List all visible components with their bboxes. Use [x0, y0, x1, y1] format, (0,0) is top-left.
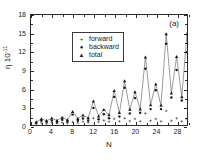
- dot-marker-icon: ●: [76, 43, 87, 51]
- legend-item-backward: ● backward: [76, 43, 119, 51]
- legend: + forward ● backward ▲ total: [72, 32, 124, 62]
- axis-tick: [73, 122, 74, 125]
- dot-marker: [170, 96, 172, 98]
- axis-tick: [157, 122, 158, 125]
- axis-tick: [31, 43, 33, 44]
- axis-tick: [31, 24, 33, 25]
- triangle-marker: [40, 117, 43, 120]
- legend-label-forward: forward: [89, 35, 112, 43]
- axis-tick: [185, 80, 187, 81]
- triangle-marker: [118, 111, 121, 114]
- axis-tick: [42, 15, 43, 17]
- axis-tick: [94, 122, 95, 125]
- plus-marker: [134, 118, 137, 121]
- axis-tick: [178, 15, 179, 18]
- plus-marker: [118, 120, 121, 123]
- y-axis-title: η 10-11: [2, 29, 13, 85]
- plus-marker: [170, 119, 173, 122]
- axis-tick: [31, 62, 33, 63]
- plus-marker: [155, 118, 158, 121]
- y-tick-label: 9: [0, 67, 26, 74]
- plus-marker: [108, 120, 111, 123]
- plus-marker: [165, 110, 168, 113]
- dot-marker: [103, 113, 105, 115]
- axis-tick: [42, 123, 43, 125]
- axis-tick: [63, 123, 64, 125]
- panel-label: (a): [169, 19, 179, 28]
- y-tick-label: 6: [0, 85, 26, 92]
- dot-marker: [118, 115, 120, 117]
- dot-marker: [160, 108, 162, 110]
- axis-tick: [185, 118, 187, 119]
- triangle-marker: [113, 89, 116, 92]
- axis-tick: [126, 123, 127, 125]
- triangle-marker: [81, 114, 84, 117]
- axis-tick: [185, 43, 187, 44]
- dot-marker: [82, 117, 84, 119]
- x-tick-label: 28: [174, 128, 182, 135]
- axis-tick: [189, 123, 190, 125]
- plus-marker: [181, 120, 184, 123]
- plus-marker-icon: +: [76, 35, 87, 43]
- x-axis-title: N: [30, 140, 188, 149]
- axis-tick: [184, 108, 187, 109]
- triangle-marker: [128, 108, 131, 111]
- y-tick-label: 18: [0, 11, 26, 18]
- triangle-marker: [170, 92, 173, 95]
- axis-tick: [84, 123, 85, 125]
- dot-marker: [108, 117, 110, 119]
- dot-marker: [181, 99, 183, 101]
- x-tick-label: 20: [131, 128, 139, 135]
- dot-marker: [175, 69, 177, 71]
- axis-tick: [52, 15, 53, 18]
- axis-tick: [184, 15, 187, 16]
- plus-marker: [175, 117, 178, 120]
- triangle-marker: [154, 82, 157, 85]
- axis-tick: [31, 15, 34, 16]
- axis-tick: [31, 71, 34, 72]
- y-tick-label: 12: [0, 48, 26, 55]
- dot-marker: [61, 119, 63, 121]
- plus-marker: [87, 121, 90, 124]
- legend-label-total: total: [89, 51, 102, 59]
- axis-tick: [31, 34, 34, 35]
- x-tick-label: 12: [89, 128, 97, 135]
- triangle-marker: [66, 118, 69, 121]
- triangle-marker: [71, 110, 74, 113]
- x-tick-label: 8: [70, 128, 74, 135]
- triangle-marker: [102, 108, 105, 111]
- x-tick-label: 0: [28, 128, 32, 135]
- axis-tick: [147, 123, 148, 125]
- dot-marker: [134, 97, 136, 99]
- axis-tick: [147, 15, 148, 17]
- axis-tick: [189, 15, 190, 17]
- legend-label-backward: backward: [89, 43, 119, 51]
- axis-tick: [168, 123, 169, 125]
- dot-marker: [87, 119, 89, 121]
- dot-marker: [139, 112, 141, 114]
- y-tick-label: 3: [0, 104, 26, 111]
- legend-item-forward: + forward: [76, 35, 119, 43]
- axis-tick: [94, 15, 95, 18]
- axis-tick: [31, 90, 34, 91]
- dot-marker: [149, 108, 151, 110]
- plus-marker: [144, 112, 147, 115]
- axis-tick: [115, 15, 116, 18]
- dot-marker: [123, 86, 125, 88]
- triangle-marker: [165, 32, 168, 35]
- axis-tick: [31, 122, 32, 125]
- x-tick-label: 24: [152, 128, 160, 135]
- axis-tick: [73, 15, 74, 18]
- dot-marker: [165, 42, 167, 44]
- triangle-marker-icon: ▲: [76, 51, 87, 59]
- plus-marker: [139, 120, 142, 123]
- triangle-marker: [139, 107, 142, 110]
- axis-tick: [31, 118, 33, 119]
- axis-tick: [178, 122, 179, 125]
- y-tick-label: 0: [0, 123, 26, 130]
- x-tick-label: 4: [49, 128, 53, 135]
- dot-marker: [71, 113, 73, 115]
- axis-tick: [105, 123, 106, 125]
- axis-tick: [185, 99, 187, 100]
- dot-marker: [97, 118, 99, 120]
